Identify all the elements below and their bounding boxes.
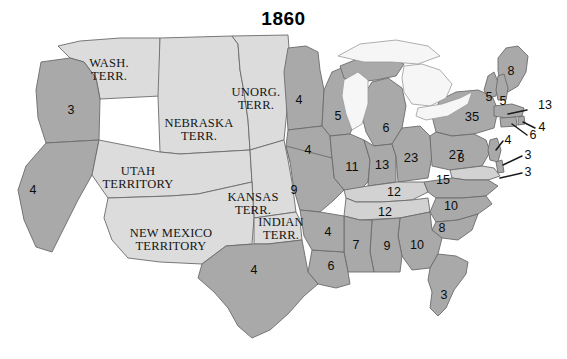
region-alabama	[370, 218, 402, 272]
region-pennsylvania	[430, 132, 490, 170]
leader-line-connecticut	[512, 124, 527, 135]
region-indian-territory	[254, 212, 302, 244]
leader-line-rhode-island	[523, 122, 535, 128]
region-virginia	[424, 178, 498, 198]
region-delaware	[496, 160, 504, 173]
region-california	[18, 140, 99, 252]
leader-line-dc	[500, 173, 522, 178]
region-nebraska-territory	[158, 36, 250, 154]
region-rhode-island	[518, 116, 525, 125]
electoral-map-page: 1860 .terr { fill: #dcdcdc; stroke: #6b6…	[0, 0, 567, 359]
leader-line-delaware	[503, 156, 522, 165]
region-florida	[428, 254, 468, 316]
region-mississippi	[344, 216, 374, 272]
region-minnesota	[284, 46, 324, 130]
region-oregon	[36, 58, 100, 143]
region-new-jersey	[488, 138, 501, 162]
region-ohio	[392, 126, 432, 182]
us-electoral-map-1860: .terr { fill: #dcdcdc; stroke: #6b6b6b; …	[0, 0, 567, 359]
region-vermont	[484, 72, 498, 98]
region-arkansas	[300, 210, 344, 252]
region-texas	[198, 240, 318, 338]
region-north-carolina	[430, 196, 492, 222]
